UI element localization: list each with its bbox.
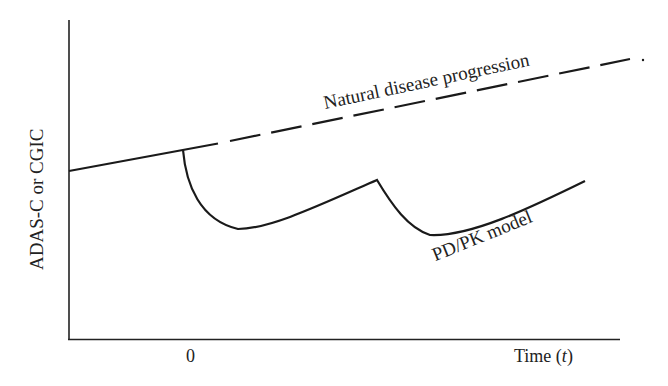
y-axis-label: ADAS-C or CGIC <box>26 129 48 270</box>
natural-progression-solid <box>69 144 218 172</box>
diagram: ADAS-C or CGIC 0 Time (t) Natural diseas… <box>0 0 668 386</box>
plot-area <box>0 0 668 386</box>
dash-end-dot <box>642 59 644 61</box>
x-axis-label-text: Time ( <box>514 346 562 366</box>
x-axis-label: Time (t) <box>514 346 573 367</box>
x-axis-label-close: ) <box>567 346 573 366</box>
x-tick-zero: 0 <box>186 346 195 367</box>
